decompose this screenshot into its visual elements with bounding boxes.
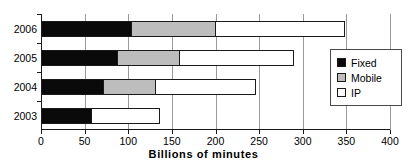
- black-swatch-icon: [337, 58, 346, 67]
- legend-label-fixed: Fixed: [351, 57, 377, 69]
- bar-segment-mobile[interactable]: [117, 50, 180, 66]
- y-tick-label: 2004: [2, 81, 37, 93]
- y-tick-mark: [37, 43, 41, 44]
- y-tick-mark: [37, 101, 41, 102]
- x-tick-label: 0: [21, 135, 61, 147]
- x-tick-mark: [128, 130, 129, 134]
- x-tick-mark: [41, 130, 42, 134]
- bar-segment-ip[interactable]: [179, 50, 294, 66]
- legend-item-fixed[interactable]: Fixed: [337, 55, 396, 70]
- y-tick-label: 2006: [2, 23, 37, 35]
- bar-segment-fixed[interactable]: [41, 108, 92, 124]
- bar-segment-ip[interactable]: [215, 21, 345, 37]
- x-tick-mark: [259, 130, 260, 134]
- bar-chart: 050100150200250300350400 200620052004200…: [0, 0, 407, 165]
- x-tick-mark: [303, 130, 304, 134]
- x-tick-mark: [216, 130, 217, 134]
- legend: Fixed Mobile IP: [330, 49, 402, 106]
- bar-segment-fixed[interactable]: [41, 50, 118, 66]
- x-tick-mark: [346, 130, 347, 134]
- y-tick-label: 2005: [2, 52, 37, 64]
- x-tick-label: 350: [326, 135, 366, 147]
- bar-segment-ip[interactable]: [91, 108, 161, 124]
- x-tick-label: 200: [196, 135, 236, 147]
- bar-segment-fixed[interactable]: [41, 79, 104, 95]
- legend-label-ip: IP: [351, 87, 361, 99]
- gray-swatch-icon: [337, 73, 346, 82]
- x-tick-label: 300: [283, 135, 323, 147]
- x-tick-label: 50: [65, 135, 105, 147]
- bar-row: [41, 108, 160, 124]
- legend-label-mobile: Mobile: [351, 72, 382, 84]
- white-swatch-icon: [337, 88, 346, 97]
- bar-segment-mobile[interactable]: [131, 21, 217, 37]
- x-tick-label: 150: [152, 135, 192, 147]
- bar-segment-fixed[interactable]: [41, 21, 132, 37]
- bar-row: [41, 21, 345, 37]
- x-tick-mark: [85, 130, 86, 134]
- x-tick-label: 100: [108, 135, 148, 147]
- legend-item-ip[interactable]: IP: [337, 85, 396, 100]
- bar-segment-ip[interactable]: [155, 79, 256, 95]
- y-tick-mark: [37, 72, 41, 73]
- bar-row: [41, 79, 256, 95]
- bar-segment-mobile[interactable]: [103, 79, 156, 95]
- x-tick-label: 250: [239, 135, 279, 147]
- y-tick-mark: [37, 14, 41, 15]
- bar-row: [41, 50, 294, 66]
- legend-item-mobile[interactable]: Mobile: [337, 70, 396, 85]
- x-tick-mark: [172, 130, 173, 134]
- x-axis-title: Billions of minutes: [0, 148, 407, 160]
- x-tick-label: 400: [370, 135, 407, 147]
- x-tick-mark: [390, 130, 391, 134]
- y-tick-label: 2003: [2, 110, 37, 122]
